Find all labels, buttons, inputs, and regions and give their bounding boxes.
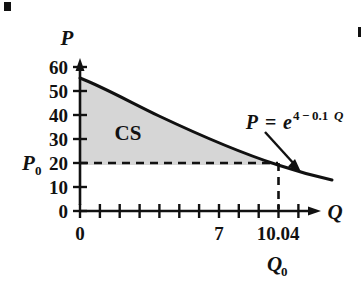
x-axis-label: Q [327,200,342,224]
price-level-label: P 0 [21,151,42,178]
x-axis-arrowhead [308,207,321,216]
price-level-label-main: P [21,151,35,175]
equation-equals-sign: = [265,111,276,133]
y-tick-label-20: 20 [49,153,68,174]
quantity-level-label-main: Q [267,252,282,276]
figure-root: 60 50 40 30 20 10 0 0 7 10.04 P Q P 0 Q … [0,0,363,285]
consumer-surplus-label: CS [115,121,142,145]
price-level-label-subscript: 0 [35,163,42,178]
curve-equation-label: P = e 4 − 0.1 Q [245,108,344,133]
consumer-surplus-chart: 60 50 40 30 20 10 0 0 7 10.04 P Q P 0 Q … [0,0,363,285]
equation-exponent-variable: Q [334,108,344,123]
y-axis-label: P [60,26,74,50]
y-tick-label-30: 30 [49,129,68,150]
edge-artifact-mark [358,27,361,37]
y-tick-label-40: 40 [49,105,68,126]
equation-exponent-term1: 4 [293,108,300,123]
y-tick-label-50: 50 [49,81,68,102]
equation-exponent-minus: − [302,108,309,123]
x-tick-label-7: 7 [214,223,224,244]
corner-artifact-mark [4,2,11,11]
y-tick-label-0: 0 [59,201,69,222]
equation-base: e [283,111,292,133]
equation-pointer-arrow-shaft [265,132,295,165]
x-tick-label-10-04: 10.04 [257,223,300,244]
y-axis-arrowhead [76,58,85,71]
quantity-level-label-subscript: 0 [281,264,288,279]
y-tick-label-10: 10 [49,177,68,198]
x-tick-label-0: 0 [75,223,85,244]
y-tick-label-60: 60 [49,57,68,78]
quantity-level-label: Q 0 [267,252,288,279]
equation-lhs: P [245,111,259,133]
equation-exponent-coefficient: 0.1 [312,108,328,123]
